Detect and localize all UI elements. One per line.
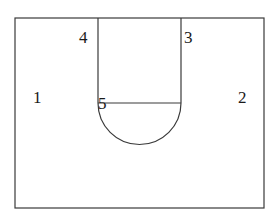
region-label-2: 2	[238, 89, 247, 106]
region-label-3: 3	[184, 29, 193, 46]
diagram-canvas: 1 2 3 4 5	[0, 0, 276, 221]
region-label-1: 1	[33, 89, 42, 106]
lower-semicircle-arc	[98, 103, 181, 144]
region-diagram-svg	[0, 0, 276, 221]
region-label-4: 4	[79, 29, 88, 46]
region-label-5: 5	[98, 95, 107, 112]
outer-boundary-rect	[15, 18, 264, 208]
